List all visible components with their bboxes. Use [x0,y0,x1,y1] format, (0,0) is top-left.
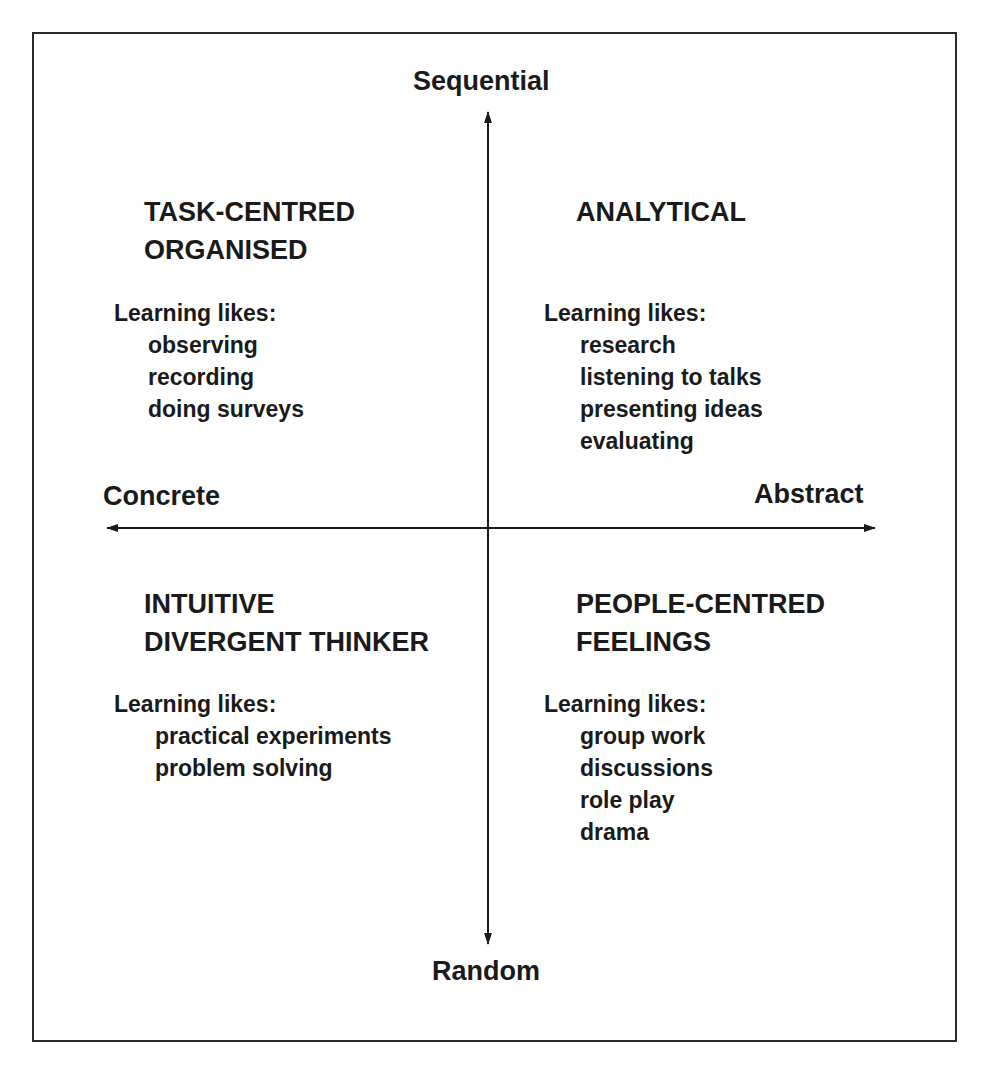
quadrant-likes-intuitive: Learning likes: practical experiments pr… [114,688,392,784]
likes-label: Learning likes: [544,688,713,720]
title-line: FEELINGS [576,623,825,661]
title-line: TASK-CENTRED [144,193,355,231]
axis-label-abstract: Abstract [754,479,864,510]
likes-label: Learning likes: [114,688,392,720]
list-item: presenting ideas [544,393,763,425]
list-item: drama [544,816,713,848]
list-item: discussions [544,752,713,784]
list-item: evaluating [544,425,763,457]
quadrant-likes-task-centred: Learning likes: observing recording doin… [114,297,304,425]
quadrant-title-analytical: ANALYTICAL [576,193,746,231]
list-item: role play [544,784,713,816]
list-item: observing [114,329,304,361]
quadrant-likes-analytical: Learning likes: research listening to ta… [544,297,763,457]
likes-label: Learning likes: [544,297,763,329]
axis-label-concrete: Concrete [103,481,220,512]
title-line: ORGANISED [144,231,355,269]
title-line: ANALYTICAL [576,193,746,231]
axis-label-random: Random [432,956,540,987]
list-item: research [544,329,763,361]
quadrant-title-task-centred: TASK-CENTRED ORGANISED [144,193,355,269]
title-line: INTUITIVE [144,585,429,623]
title-line: PEOPLE-CENTRED [576,585,825,623]
list-item: problem solving [114,752,392,784]
list-item: recording [114,361,304,393]
axis-label-sequential: Sequential [413,66,550,97]
likes-label: Learning likes: [114,297,304,329]
list-item: group work [544,720,713,752]
list-item: practical experiments [114,720,392,752]
quadrant-likes-people-centred: Learning likes: group work discussions r… [544,688,713,848]
quadrant-title-people-centred: PEOPLE-CENTRED FEELINGS [576,585,825,661]
list-item: listening to talks [544,361,763,393]
quadrant-title-intuitive: INTUITIVE DIVERGENT THINKER [144,585,429,661]
axes [0,0,985,1070]
list-item: doing surveys [114,393,304,425]
title-line: DIVERGENT THINKER [144,623,429,661]
